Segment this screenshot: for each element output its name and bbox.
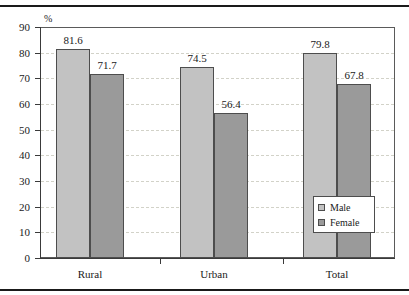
- legend-item-male: Male: [318, 200, 370, 215]
- y-tick-label-0: 0: [4, 253, 30, 264]
- legend-swatch-male-icon: [318, 204, 325, 211]
- y-tick-label-40: 40: [4, 150, 30, 161]
- bar-value-total-male: 79.8: [300, 39, 340, 50]
- chart-legend: Male Female: [313, 196, 375, 233]
- x-tick-1: [283, 259, 284, 264]
- y-tick-0: [35, 258, 40, 259]
- y-tick-90: [35, 27, 40, 28]
- legend-swatch-female-icon: [318, 219, 325, 226]
- y-tick-label-20: 20: [4, 202, 30, 213]
- y-tick-label-50: 50: [4, 125, 30, 136]
- x-axis-line: [40, 258, 395, 259]
- y-tick-label-90: 90: [4, 22, 30, 33]
- y-tick-80: [35, 53, 40, 54]
- bar-urban-male: [180, 67, 214, 258]
- y-tick-label-60: 60: [4, 99, 30, 110]
- y-tick-40: [35, 155, 40, 156]
- y-tick-50: [35, 130, 40, 131]
- y-tick-10: [35, 232, 40, 233]
- y-tick-label-30: 30: [4, 176, 30, 187]
- y-axis-line: [40, 27, 41, 259]
- x-tick-0: [160, 259, 161, 264]
- chart-page: { "chart_data": { "type": "bar", "title"…: [0, 0, 409, 295]
- y-tick-60: [35, 104, 40, 105]
- bar-value-rural-female: 71.7: [87, 60, 127, 71]
- bar-value-total-female: 67.8: [334, 70, 374, 81]
- bar-urban-female: [214, 113, 248, 258]
- y-tick-20: [35, 207, 40, 208]
- bar-rural-male: [56, 49, 90, 258]
- y-tick-30: [35, 181, 40, 182]
- y-tick-label-80: 80: [4, 48, 30, 59]
- y-tick-label-70: 70: [4, 73, 30, 84]
- x-axis-label-urban: Urban: [174, 268, 254, 280]
- y-tick-70: [35, 78, 40, 79]
- gridline-80: [41, 53, 394, 54]
- bar-value-urban-male: 74.5: [177, 53, 217, 64]
- legend-item-female: Female: [318, 215, 370, 230]
- legend-label-male: Male: [330, 203, 351, 213]
- x-axis-label-rural: Rural: [50, 268, 130, 280]
- y-axis-unit-label: %: [44, 14, 52, 24]
- top-divider-rule: [0, 5, 409, 7]
- y-tick-label-10: 10: [4, 227, 30, 238]
- bar-value-rural-male: 81.6: [53, 35, 93, 46]
- bar-rural-female: [90, 74, 124, 258]
- bottom-divider-rule: [0, 289, 409, 291]
- bar-value-urban-female: 56.4: [211, 99, 251, 110]
- legend-label-female: Female: [330, 218, 359, 228]
- x-axis-label-total: Total: [297, 268, 377, 280]
